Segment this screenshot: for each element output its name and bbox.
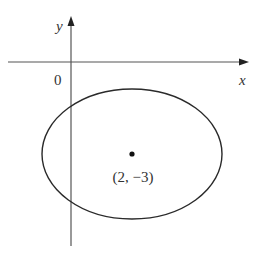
x-axis-label: x (238, 72, 246, 88)
y-axis-label: y (54, 18, 63, 34)
diagram-canvas: y 0 x (2, −3) (0, 0, 268, 254)
center-label: (2, −3) (113, 169, 154, 186)
x-axis-arrow-icon (239, 59, 249, 66)
origin-label: 0 (54, 72, 62, 88)
y-axis-arrow-icon (68, 16, 75, 26)
center-point (129, 151, 134, 156)
x-axis (8, 59, 249, 66)
y-axis (68, 16, 75, 246)
